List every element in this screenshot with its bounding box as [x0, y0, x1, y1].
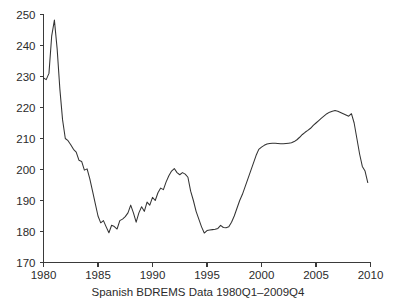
- x-tick-group: 1980198519901995200020052010: [31, 263, 384, 281]
- y-tick-label: 250: [16, 9, 35, 21]
- x-tick-label: 2010: [358, 269, 384, 281]
- x-tick-label: 1990: [140, 269, 166, 281]
- data-line-spanish-bdrems: [44, 20, 368, 233]
- axes-layer: [44, 15, 371, 263]
- y-tick-label: 180: [16, 226, 35, 238]
- series-group: [44, 20, 368, 233]
- y-tick-label: 200: [16, 164, 35, 176]
- x-tick-label: 2000: [249, 269, 275, 281]
- y-tick-label: 240: [16, 40, 35, 52]
- x-tick-label: 1995: [194, 269, 220, 281]
- x-tick-label: 2005: [303, 269, 329, 281]
- y-tick-label: 220: [16, 102, 35, 114]
- line-chart: 170180190200210220230240250 198019851990…: [0, 0, 397, 307]
- y-tick-label: 210: [16, 133, 35, 145]
- x-tick-label: 1985: [85, 269, 111, 281]
- y-tick-group: 170180190200210220230240250: [16, 9, 43, 269]
- y-tick-label: 230: [16, 71, 35, 83]
- x-tick-label: 1980: [31, 269, 57, 281]
- chart-figure: 170180190200210220230240250 198019851990…: [0, 0, 397, 307]
- chart-caption: Spanish BDREMS Data 1980Q1–2009Q4: [92, 286, 305, 298]
- y-tick-label: 190: [16, 195, 35, 207]
- y-tick-label: 170: [16, 257, 35, 269]
